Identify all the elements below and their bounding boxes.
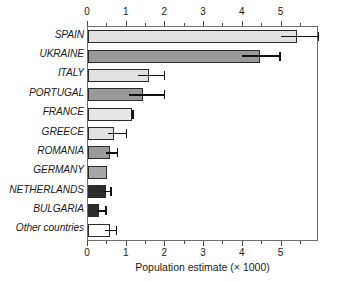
bar-series xyxy=(88,27,317,240)
error-bar-cap xyxy=(105,206,107,215)
category-label: GERMANY xyxy=(0,164,84,175)
category-label: PORTUGAL xyxy=(0,87,84,98)
error-bar-cap xyxy=(132,110,134,119)
axis-tick-label: 2 xyxy=(154,6,174,17)
axis-minor-tick xyxy=(184,241,185,244)
category-label: Other countries xyxy=(0,222,84,233)
error-bar-cap xyxy=(117,148,119,157)
axis-tick-label: 4 xyxy=(232,6,252,17)
x-axis-title: Population estimate (× 1000) xyxy=(87,261,318,273)
axis-minor-tick xyxy=(300,241,301,244)
error-bar-cap xyxy=(110,187,112,196)
error-bar-cap xyxy=(318,32,320,41)
axis-tick-label: 0 xyxy=(77,247,97,258)
axis-major-tick xyxy=(164,241,165,246)
error-bar-cap xyxy=(164,71,166,80)
axis-tick-label: 3 xyxy=(193,247,213,258)
category-label: NETHERLANDS xyxy=(0,184,84,195)
category-label: ITALY xyxy=(0,67,84,78)
error-bar-cap xyxy=(164,90,166,99)
axis-tick-label: 1 xyxy=(116,6,136,17)
axis-major-tick xyxy=(203,241,204,246)
axis-tick-label: 4 xyxy=(232,247,252,258)
error-bar-cap xyxy=(126,129,128,138)
axis-major-tick xyxy=(242,241,243,246)
axis-tick-label: 0 xyxy=(77,6,97,17)
axis-minor-tick xyxy=(261,241,262,244)
axis-minor-tick xyxy=(145,241,146,244)
axis-tick-label: 5 xyxy=(271,247,291,258)
error-bar xyxy=(129,94,166,96)
error-bar-cap xyxy=(116,226,118,235)
bar-chart: 012345 SPAINUKRAINEITALYPORTUGALFRANCEGR… xyxy=(0,0,338,282)
axis-major-tick xyxy=(281,241,282,246)
error-bar xyxy=(281,36,319,38)
category-axis-labels: SPAINUKRAINEITALYPORTUGALFRANCEGREECEROM… xyxy=(0,26,84,241)
error-bar xyxy=(138,75,165,77)
category-label: FRANCE xyxy=(0,106,84,117)
error-bar xyxy=(242,55,281,57)
bar xyxy=(88,30,297,43)
axis-major-tick xyxy=(87,241,88,246)
axis-minor-tick xyxy=(222,241,223,244)
error-bar-cap xyxy=(279,52,281,61)
axis-tick-label: 1 xyxy=(116,247,136,258)
category-label: ROMANIA xyxy=(0,145,84,156)
axis-tick-label: 5 xyxy=(271,6,291,17)
bar xyxy=(88,50,260,63)
category-label: UKRAINE xyxy=(0,48,84,59)
error-bar xyxy=(108,133,127,135)
axis-minor-tick xyxy=(106,241,107,244)
axis-major-tick xyxy=(126,241,127,246)
bar xyxy=(88,108,132,121)
category-label: SPAIN xyxy=(0,29,84,40)
axis-tick-label: 3 xyxy=(193,6,213,17)
bar xyxy=(88,166,107,179)
axis-tick-label: 2 xyxy=(154,247,174,258)
category-label: GREECE xyxy=(0,126,84,137)
category-label: BULGARIA xyxy=(0,203,84,214)
